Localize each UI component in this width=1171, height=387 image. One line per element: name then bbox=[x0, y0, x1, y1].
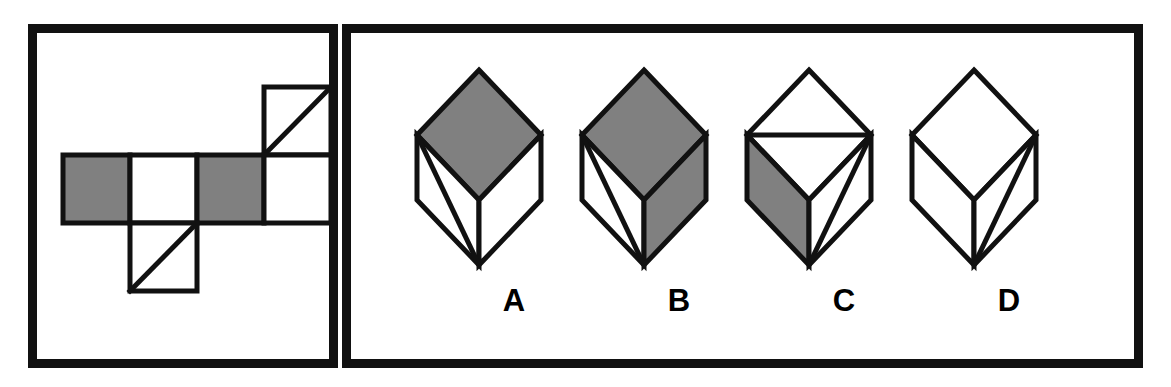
cube-option-d[interactable] bbox=[912, 70, 1036, 265]
cube-option-c[interactable] bbox=[747, 70, 871, 265]
figure-root: A B C D bbox=[0, 0, 1171, 387]
net-cell-c1r2 bbox=[63, 155, 130, 223]
net-cell-c2r2 bbox=[130, 155, 197, 223]
option-label-a: A bbox=[484, 285, 544, 316]
cube-option-a[interactable] bbox=[417, 70, 541, 265]
options-panel: A B C D bbox=[342, 24, 1143, 368]
option-label-d: D bbox=[979, 285, 1039, 316]
option-label-b: B bbox=[649, 285, 709, 316]
net-panel bbox=[28, 24, 338, 368]
option-label-c: C bbox=[814, 285, 874, 316]
net-cell-c4r2 bbox=[264, 155, 329, 223]
cube-net-drawing bbox=[37, 33, 329, 359]
net-cell-c3r2 bbox=[197, 155, 264, 223]
cube-option-b[interactable] bbox=[582, 70, 706, 265]
